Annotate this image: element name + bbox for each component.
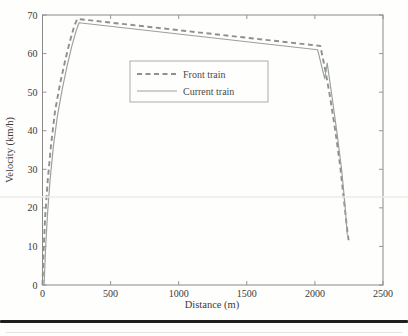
legend-label: Front train	[183, 69, 226, 80]
x-axis-tick-label: 1000	[169, 288, 189, 299]
x-axis-tick-label: 1500	[237, 288, 257, 299]
y-axis-tick-label: 30	[28, 164, 38, 175]
velocity-distance-chart: 05001000150020002500010203040506070 Fron…	[0, 0, 408, 318]
x-axis-tick-label: 2500	[373, 288, 393, 299]
y-axis-tick-label: 40	[28, 125, 38, 136]
x-axis-tick-label: 0	[40, 288, 45, 299]
y-axis-tick-label: 70	[28, 10, 38, 21]
axis-ticks	[43, 15, 384, 285]
x-axis-tick-label: 2000	[305, 288, 325, 299]
y-axis-tick-label: 50	[28, 87, 38, 98]
y-axis-tick-label: 60	[28, 48, 38, 59]
series-front-train-line	[43, 19, 349, 285]
y-axis-tick-label: 0	[33, 280, 38, 291]
plot-svg: 05001000150020002500010203040506070 Fron…	[0, 0, 408, 318]
y-axis-tick-label: 20	[28, 202, 38, 213]
x-axis-tick-label: 500	[103, 288, 118, 299]
y-axis-tick-label: 10	[28, 241, 38, 252]
page-divider-shadow	[6, 332, 402, 333]
data-series	[43, 19, 349, 285]
plot-frame	[43, 15, 384, 285]
legend-box: Front trainCurrent train	[130, 61, 268, 102]
legend-label: Current train	[183, 86, 234, 97]
scan-artifact-band	[0, 196, 408, 198]
x-axis-label: Distance (m)	[185, 299, 240, 311]
page-divider-rule	[0, 320, 408, 323]
y-axis-label: Velocity (km/h)	[4, 116, 16, 183]
